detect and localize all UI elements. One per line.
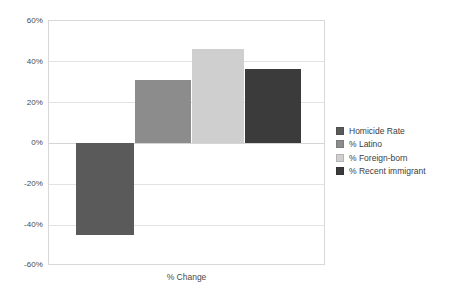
bar-pct-recent-immigrant[interactable] [245, 69, 301, 143]
y-tick-label-0: 0% [3, 138, 43, 147]
legend-swatch-icon-pct-latino [336, 140, 344, 148]
legend-label-pct-foreign-born: % Foreign-born [349, 153, 408, 163]
legend-item-pct-foreign-born[interactable]: % Foreign-born [336, 151, 460, 164]
y-tick-label-60: 60% [3, 16, 43, 25]
y-tick-label-neg60: -60% [3, 260, 43, 269]
legend-swatch-icon-pct-recent-immigrant [336, 167, 344, 175]
bar-pct-latino[interactable] [135, 80, 191, 143]
plot-area [48, 20, 325, 265]
chart-legend: Homicide Rate % Latino % Foreign-born % … [336, 124, 460, 178]
legend-item-pct-latino[interactable]: % Latino [336, 138, 460, 151]
y-tick-label-40: 40% [3, 57, 43, 66]
y-tick-label-neg40: -40% [3, 220, 43, 229]
legend-swatch-icon-pct-foreign-born [336, 154, 344, 162]
legend-label-homicide-rate: Homicide Rate [349, 126, 405, 136]
bar-pct-foreign-born[interactable] [192, 49, 244, 143]
x-axis-label: % Change [48, 272, 325, 282]
legend-label-pct-recent-immigrant: % Recent immigrant [349, 166, 426, 176]
legend-item-homicide-rate[interactable]: Homicide Rate [336, 124, 460, 137]
legend-swatch-icon-homicide-rate [336, 127, 344, 135]
y-tick-label-neg20: -20% [3, 179, 43, 188]
bar-homicide-rate[interactable] [76, 143, 134, 235]
gridline-40 [49, 61, 324, 62]
legend-label-pct-latino: % Latino [349, 139, 382, 149]
legend-item-pct-recent-immigrant[interactable]: % Recent immigrant [336, 165, 460, 178]
bar-chart: 60% 40% 20% 0% -20% -40% -60% % Change H… [0, 0, 463, 297]
y-tick-label-20: 20% [3, 98, 43, 107]
